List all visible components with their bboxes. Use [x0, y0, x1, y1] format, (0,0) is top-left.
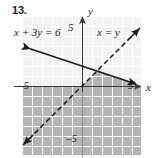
- math-figure: 13.: [0, 0, 161, 158]
- y-axis-tick-label-negative-5: –5: [66, 133, 77, 144]
- equation-label-dashed-line: x = y: [97, 27, 120, 38]
- x-axis-name-label: x: [146, 82, 151, 93]
- y-axis-name-label: y: [88, 6, 93, 17]
- x-axis-tick-label-5: 5: [128, 80, 134, 91]
- y-axis-tick-label-5: 5: [68, 22, 74, 33]
- equation-label-solid-line: x + 3y = 6: [14, 27, 61, 38]
- x-axis-tick-label-negative-5: –5: [18, 80, 29, 91]
